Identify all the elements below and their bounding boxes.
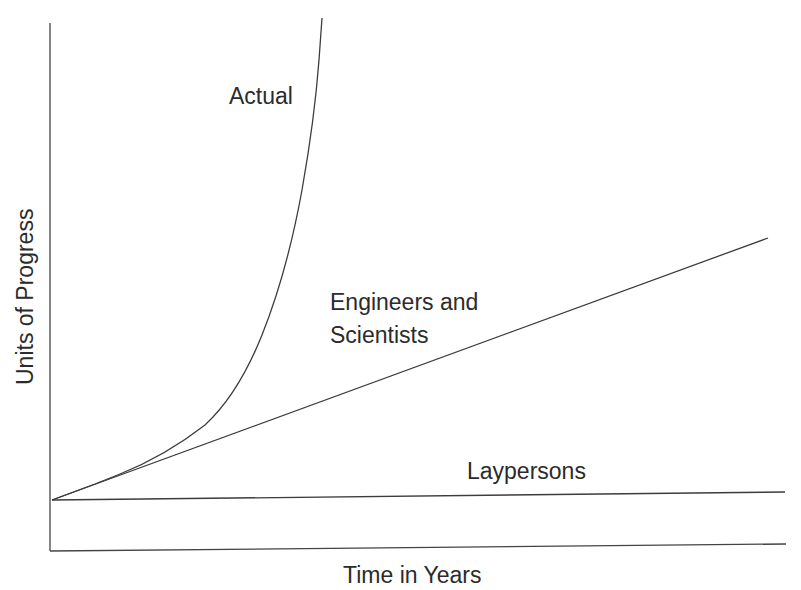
x-axis-label: Time in Years — [343, 562, 482, 588]
series-engineers-line — [52, 238, 768, 500]
label-engineers-line2: Scientists — [330, 322, 428, 348]
x-axis — [50, 544, 786, 551]
label-actual: Actual — [229, 83, 293, 109]
y-axis-label: Units of Progress — [12, 209, 39, 385]
series-laypersons-line — [52, 492, 785, 500]
label-engineers-line1: Engineers and — [330, 289, 478, 315]
label-laypersons: Laypersons — [467, 458, 586, 484]
